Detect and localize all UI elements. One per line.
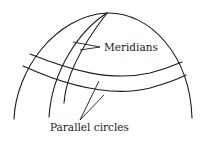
- parallel-circle-1: [30, 54, 182, 76]
- globe-outline: [14, 13, 192, 119]
- globe-diagram: Meridians Parallel circles: [0, 0, 201, 144]
- meridians-label: Meridians: [104, 41, 158, 53]
- parallel-circles-label: Parallel circles: [50, 121, 129, 133]
